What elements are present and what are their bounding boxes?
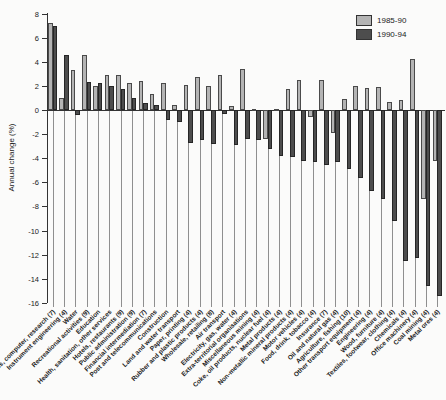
- bar-1990-94-35: [437, 110, 442, 296]
- category-gridline: [143, 110, 144, 307]
- bar-chart: Annual change by industry Annual change …: [0, 0, 446, 400]
- y-tick-label: 4: [13, 59, 39, 66]
- y-axis-tick: [42, 158, 47, 159]
- bar-1985-90-29: [365, 88, 370, 110]
- bar-1990-94-14: [200, 110, 205, 140]
- bar-1985-90-28: [353, 86, 358, 110]
- y-tick-label: -16: [13, 300, 39, 307]
- bar-1990-94-34: [426, 110, 431, 286]
- bar-1985-90-23: [297, 80, 302, 110]
- bar-1990-94-27: [347, 110, 352, 169]
- bar-1990-94-12: [177, 110, 182, 122]
- bar-1990-94-28: [358, 110, 363, 178]
- y-tick-label: -4: [13, 155, 39, 162]
- y-tick-label: -14: [13, 276, 39, 283]
- category-gridline: [222, 110, 223, 307]
- bar-1990-94-8: [132, 98, 137, 110]
- bar-1990-94-17: [234, 110, 239, 145]
- bar-1990-94-13: [188, 110, 193, 143]
- category-gridline: [109, 110, 110, 307]
- bar-1990-94-30: [381, 110, 386, 199]
- bar-1990-94-6: [109, 86, 114, 110]
- bar-1990-94-25: [324, 110, 329, 165]
- y-axis-tick: [42, 62, 47, 63]
- category-gridline: [98, 110, 99, 307]
- bar-1990-94-26: [335, 110, 340, 162]
- y-tick-label: -8: [13, 203, 39, 210]
- y-axis-tick: [42, 231, 47, 232]
- category-gridline: [177, 110, 178, 307]
- legend-swatch-1985-90: [356, 15, 372, 26]
- bar-1990-94-24: [313, 110, 318, 162]
- y-tick-label: -6: [13, 179, 39, 186]
- bar-1985-90-15: [206, 86, 211, 110]
- bar-1990-94-16: [222, 110, 227, 114]
- category-gridline: [87, 110, 88, 307]
- y-axis-tick: [42, 255, 47, 256]
- y-tick-label: -10: [13, 228, 39, 235]
- bar-1990-94-3: [75, 110, 80, 115]
- bar-1990-94-19: [256, 110, 261, 140]
- category-gridline: [132, 110, 133, 307]
- bar-1990-94-2: [64, 55, 69, 110]
- bar-1990-94-1: [53, 26, 58, 110]
- legend: 1985-90 1990-94: [356, 15, 406, 43]
- bar-1985-90-11: [161, 83, 166, 110]
- category-gridline: [75, 110, 76, 307]
- bar-1990-94-7: [121, 89, 126, 110]
- y-tick-label: -12: [13, 252, 39, 259]
- legend-item-1990-94: 1990-94: [356, 29, 406, 40]
- legend-swatch-1990-94: [356, 29, 372, 40]
- category-gridline: [53, 110, 54, 307]
- bar-1990-94-31: [392, 110, 397, 221]
- category-gridline: [154, 110, 155, 307]
- category-gridline: [166, 110, 167, 307]
- bar-1990-94-4: [87, 82, 92, 110]
- y-tick-label: 6: [13, 35, 39, 42]
- bar-1990-94-9: [143, 103, 148, 110]
- y-tick-label: -2: [13, 131, 39, 138]
- y-tick-label: 2: [13, 83, 39, 90]
- bar-1985-90-30: [376, 87, 381, 110]
- bar-1985-90-25: [319, 80, 324, 110]
- y-axis-tick: [42, 134, 47, 135]
- bar-1985-90-3: [71, 70, 76, 110]
- legend-item-1985-90: 1985-90: [356, 15, 406, 26]
- bar-1985-90-33: [410, 59, 415, 110]
- y-axis-tick: [42, 38, 47, 39]
- bar-1985-90-16: [218, 75, 223, 110]
- y-axis-tick: [42, 14, 47, 15]
- bar-1990-94-11: [166, 110, 171, 120]
- y-axis-tick: [42, 86, 47, 87]
- bar-1985-90-27: [342, 99, 347, 110]
- bar-1990-94-10: [154, 105, 159, 110]
- y-axis-tick: [42, 206, 47, 207]
- bar-1990-94-5: [98, 83, 103, 110]
- y-axis-tick: [42, 303, 47, 304]
- bar-1990-94-20: [268, 110, 273, 149]
- bar-1990-94-22: [290, 110, 295, 157]
- category-gridline: [245, 110, 246, 307]
- bar-1990-94-15: [211, 110, 216, 144]
- bar-1990-94-29: [369, 110, 374, 191]
- bar-1985-90-13: [184, 85, 189, 110]
- chart-title-clipped: Annual change by industry: [120, 0, 330, 4]
- bar-1990-94-21: [279, 110, 284, 156]
- bar-1985-90-18: [240, 69, 245, 110]
- bar-1990-94-33: [415, 110, 420, 258]
- y-tick-label: 8: [13, 11, 39, 18]
- category-gridline: [64, 110, 65, 307]
- y-axis-tick: [42, 182, 47, 183]
- legend-label-1990-94: 1990-94: [377, 30, 406, 39]
- bar-1990-94-23: [301, 110, 306, 161]
- bar-1990-94-18: [245, 110, 250, 139]
- bar-1985-90-32: [399, 100, 404, 110]
- category-gridline: [121, 110, 122, 307]
- bar-1985-90-14: [195, 77, 200, 110]
- bar-1985-90-22: [286, 89, 291, 110]
- bar-1985-90-31: [387, 102, 392, 110]
- bar-1990-94-32: [403, 110, 408, 261]
- y-tick-label: 0: [13, 107, 39, 114]
- y-axis-tick: [42, 279, 47, 280]
- legend-label-1985-90: 1985-90: [377, 16, 406, 25]
